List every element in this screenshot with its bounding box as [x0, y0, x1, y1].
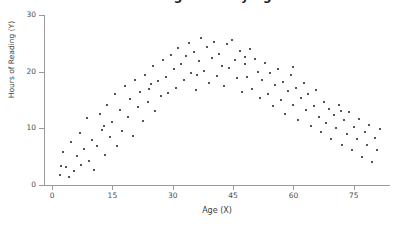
scatter-point — [106, 104, 108, 106]
scatter-point — [154, 110, 156, 112]
scatter-point — [200, 37, 202, 39]
scatter-point — [246, 76, 248, 78]
scatter-point — [318, 116, 320, 118]
scatter-point — [183, 79, 185, 81]
x-tick-mark — [112, 185, 113, 190]
scatter-point — [234, 59, 236, 61]
scatter-point — [109, 136, 111, 138]
scatter-point — [371, 161, 373, 163]
scatter-point — [211, 57, 213, 59]
scatter-point — [364, 131, 366, 133]
scatter-point — [231, 39, 233, 41]
scatter-point — [376, 149, 378, 151]
x-tick-label: 75 — [339, 192, 369, 200]
scatter-point — [162, 59, 164, 61]
scatter-point — [185, 55, 187, 57]
scatter-point — [68, 176, 70, 178]
scatter-point — [203, 70, 205, 72]
scatter-point — [79, 132, 81, 134]
scatter-point — [124, 85, 126, 87]
x-tick-label: 0 — [37, 192, 67, 200]
y-axis-label: Hours of Reading (Y) — [7, 5, 16, 115]
scatter-point — [127, 116, 129, 118]
scatter-point — [142, 120, 144, 122]
scatter-point — [80, 164, 82, 166]
scatter-point — [264, 62, 266, 64]
scatter-point — [70, 141, 72, 143]
scatter-point — [60, 165, 62, 167]
scatter-point — [144, 74, 146, 76]
scatter-point — [379, 128, 381, 130]
scatter-point — [257, 71, 259, 73]
scatter-point — [335, 127, 337, 129]
x-tick-mark — [52, 185, 53, 190]
scatter-point — [137, 106, 139, 108]
scatter-point — [269, 72, 271, 74]
scatter-point — [292, 66, 294, 68]
scatter-point — [361, 156, 363, 158]
scatter-point — [86, 117, 88, 119]
scatter-point — [307, 93, 309, 95]
scatter-point — [111, 121, 113, 123]
scatter-point — [259, 97, 261, 99]
x-tick-label: 15 — [97, 192, 127, 200]
scatter-point — [346, 133, 348, 135]
scatter-point — [62, 151, 64, 153]
scatter-point — [226, 43, 228, 45]
scatter-point — [103, 125, 105, 127]
scatter-point — [213, 41, 215, 43]
scatter-point — [139, 91, 141, 93]
scatter-point — [356, 138, 358, 140]
scatter-point — [305, 109, 307, 111]
scatter-point — [88, 160, 90, 162]
scatter-point — [284, 113, 286, 115]
scatter-point — [368, 124, 370, 126]
scatter-point — [147, 101, 149, 103]
scatter-point — [121, 130, 123, 132]
scatter-point — [295, 87, 297, 89]
scatter-point — [353, 126, 355, 128]
scatter-point — [313, 105, 315, 107]
scatter-point — [333, 114, 335, 116]
scatter-point — [196, 74, 198, 76]
scatter-point — [272, 105, 274, 107]
x-tick-label: 60 — [278, 192, 308, 200]
scatter-point — [206, 46, 208, 48]
scatter-point — [190, 72, 192, 74]
scatter-point — [280, 99, 282, 101]
scatter-plot-figure: Reading Hours by Age 0102030 01530456075… — [0, 0, 406, 230]
scatter-point — [300, 97, 302, 99]
scatter-point — [170, 54, 172, 56]
scatter-point — [340, 110, 342, 112]
scatter-point — [132, 135, 134, 137]
scatter-point — [173, 68, 175, 70]
scatter-point — [374, 137, 376, 139]
scatter-point — [59, 174, 61, 176]
scatter-point — [148, 88, 150, 90]
scatter-point — [287, 90, 289, 92]
scatter-point — [175, 87, 177, 89]
x-tick-label: 30 — [158, 192, 188, 200]
scatter-point — [165, 76, 167, 78]
x-axis-label: Age (X) — [44, 206, 390, 215]
scatter-point — [282, 81, 284, 83]
scatter-point — [323, 101, 325, 103]
x-tick-mark — [354, 185, 355, 190]
x-tick-mark — [293, 185, 294, 190]
scatter-point — [216, 75, 218, 77]
scatter-point — [198, 60, 200, 62]
scatter-point — [99, 113, 101, 115]
scatter-point — [208, 82, 210, 84]
scatter-point — [290, 74, 292, 76]
scatter-point — [73, 170, 75, 172]
chart-title: Reading Hours by Age — [0, 0, 406, 3]
scatter-point — [341, 144, 343, 146]
scatter-point — [65, 166, 67, 168]
scatter-point — [366, 144, 368, 146]
scatter-point — [116, 145, 118, 147]
scatter-point — [297, 119, 299, 121]
x-tick-label: 45 — [218, 192, 248, 200]
scatter-point — [104, 154, 106, 156]
scatter-point — [261, 79, 263, 81]
scatter-point — [315, 89, 317, 91]
